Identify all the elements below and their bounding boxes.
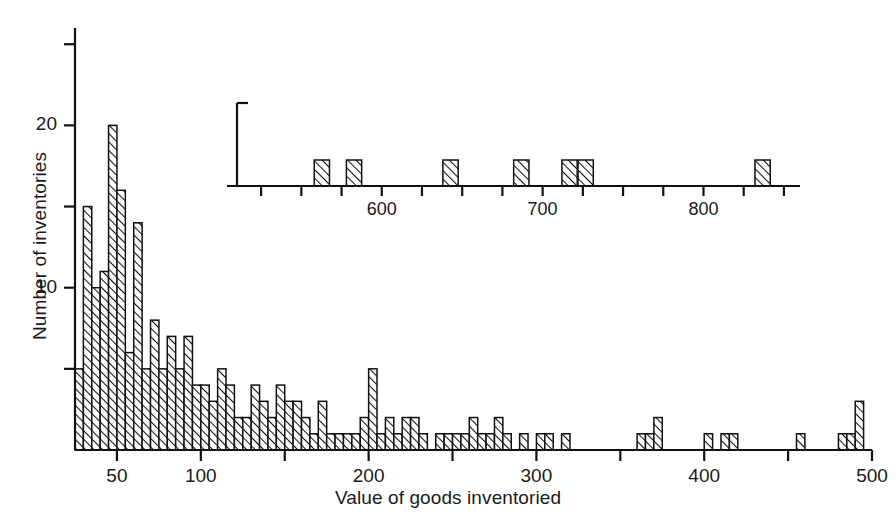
histogram-bar (125, 353, 133, 450)
histogram-bar (192, 385, 200, 450)
histogram-bar (117, 190, 125, 450)
histogram-bar (796, 434, 804, 450)
x-tick-label: 50 (77, 465, 157, 487)
histogram-bar (226, 385, 234, 450)
histogram-bar (318, 401, 326, 450)
x-axis-title: Value of goods inventoried (0, 487, 896, 509)
histogram-bar (83, 207, 91, 450)
inset-bar-group (314, 160, 770, 186)
histogram-bar (142, 369, 150, 450)
histogram-bar (285, 401, 293, 450)
histogram-bar (335, 434, 343, 450)
histogram-bar (276, 385, 284, 450)
histogram-bar (92, 288, 100, 450)
histogram-bar (461, 434, 469, 450)
histogram-bar (478, 434, 486, 450)
inset-histogram-bar (443, 160, 458, 186)
histogram-bar (545, 434, 553, 450)
histogram-bar (385, 418, 393, 450)
histogram-bar (469, 418, 477, 450)
histogram-bar (167, 336, 175, 450)
histogram-bar (234, 418, 242, 450)
histogram-bar (486, 434, 494, 450)
histogram-bar (184, 336, 192, 450)
x-tick-label: 500 (832, 465, 896, 487)
histogram-bar (176, 369, 184, 450)
histogram-bar (453, 434, 461, 450)
histogram-bar (838, 434, 846, 450)
inset-histogram-bar (755, 160, 770, 186)
x-tick-label: 200 (329, 465, 409, 487)
histogram-bar (562, 434, 570, 450)
histogram-bar (268, 418, 276, 450)
histogram-bar (654, 418, 662, 450)
histogram-bar (369, 369, 377, 450)
x-tick-label: 100 (161, 465, 241, 487)
histogram-bar (151, 320, 159, 450)
histogram-bar (134, 223, 142, 450)
histogram-bar (637, 434, 645, 450)
histogram-bar (377, 434, 385, 450)
histogram-bar (436, 434, 444, 450)
histogram-bar (218, 369, 226, 450)
histogram-bar (302, 418, 310, 450)
histogram-bar (704, 434, 712, 450)
histogram-bar (729, 434, 737, 450)
inset-histogram-bar (562, 160, 577, 186)
y-tick-label: 10 (0, 276, 57, 298)
histogram-bar (419, 434, 427, 450)
inset-histogram-bar (346, 160, 361, 186)
histogram-bar (293, 401, 301, 450)
inset-x-tick-label: 800 (663, 199, 743, 220)
x-tick-label: 400 (664, 465, 744, 487)
histogram-bar (503, 434, 511, 450)
histogram-bar (520, 434, 528, 450)
histogram-bar (721, 434, 729, 450)
histogram-bar (360, 418, 368, 450)
histogram-bar (243, 418, 251, 450)
histogram-bar (536, 434, 544, 450)
histogram-bar (855, 401, 863, 450)
inset-x-tick-label: 700 (503, 199, 583, 220)
histogram-bar (159, 369, 167, 450)
histogram-bar (75, 369, 83, 450)
x-tick-label: 300 (496, 465, 576, 487)
inset-histogram-bar (578, 160, 593, 186)
histogram-bar (352, 434, 360, 450)
histogram-bar (209, 401, 217, 450)
inset-x-tick-label: 600 (342, 199, 422, 220)
histogram-bar (251, 385, 259, 450)
histogram-figure: Value of goods inventoried Number of inv… (0, 0, 896, 530)
inset-histogram-bar (314, 160, 329, 186)
histogram-bar (343, 434, 351, 450)
plot-canvas (0, 0, 896, 530)
histogram-bar (394, 434, 402, 450)
y-tick-label: 20 (0, 113, 57, 135)
histogram-bar (310, 434, 318, 450)
histogram-bar (327, 434, 335, 450)
main-bar-group (75, 125, 864, 450)
histogram-bar (260, 401, 268, 450)
histogram-bar (109, 125, 117, 450)
histogram-bar (402, 418, 410, 450)
histogram-bar (411, 418, 419, 450)
histogram-bar (847, 434, 855, 450)
histogram-bar (645, 434, 653, 450)
histogram-bar (494, 418, 502, 450)
histogram-bar (444, 434, 452, 450)
histogram-bar (201, 385, 209, 450)
histogram-bar (100, 271, 108, 450)
inset-histogram-bar (514, 160, 529, 186)
